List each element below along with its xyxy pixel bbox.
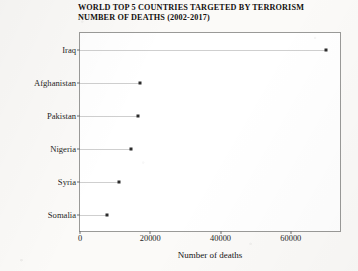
data-point-marker bbox=[324, 48, 327, 51]
x-tick-label-20000: 20000 bbox=[140, 234, 161, 243]
stem-line bbox=[80, 149, 131, 150]
y-tick-label-iraq: Iraq bbox=[62, 45, 76, 54]
data-point-marker bbox=[118, 180, 121, 183]
x-axis-label: Number of deaths bbox=[79, 250, 341, 260]
data-point-marker bbox=[105, 213, 108, 216]
y-tick-mark bbox=[77, 214, 80, 215]
y-tick-mark bbox=[77, 148, 80, 149]
y-tick-mark bbox=[77, 115, 80, 116]
y-tick-label-somalia: Somalia bbox=[48, 210, 76, 219]
scanned-page: WORLD TOP 5 COUNTRIES TARGETED BY TERROR… bbox=[0, 0, 358, 271]
stem-line bbox=[80, 116, 138, 117]
data-point-marker bbox=[129, 147, 132, 150]
x-tick-label-60000: 60000 bbox=[280, 234, 301, 243]
data-point-marker bbox=[138, 81, 141, 84]
y-tick-mark bbox=[77, 49, 80, 50]
plot-area: IraqAfghanistanPakistanNigeriaSyriaSomal… bbox=[80, 33, 340, 231]
x-tick-label-0: 0 bbox=[78, 234, 82, 243]
y-tick-mark bbox=[77, 181, 80, 182]
x-tick-label-40000: 40000 bbox=[210, 234, 231, 243]
y-tick-mark bbox=[77, 82, 80, 83]
plot-frame: IraqAfghanistanPakistanNigeriaSyriaSomal… bbox=[79, 32, 341, 232]
stem-line bbox=[80, 83, 140, 84]
y-tick-label-nigeria: Nigeria bbox=[50, 144, 76, 153]
chart-title: WORLD TOP 5 COUNTRIES TARGETED BY TERROR… bbox=[78, 3, 350, 24]
stem-line bbox=[80, 50, 326, 51]
stem-line bbox=[80, 215, 107, 216]
y-tick-label-afghanistan: Afghanistan bbox=[34, 78, 76, 87]
data-point-marker bbox=[136, 114, 139, 117]
y-tick-label-syria: Syria bbox=[58, 177, 76, 186]
stem-line bbox=[80, 182, 119, 183]
y-tick-label-pakistan: Pakistan bbox=[47, 111, 76, 120]
